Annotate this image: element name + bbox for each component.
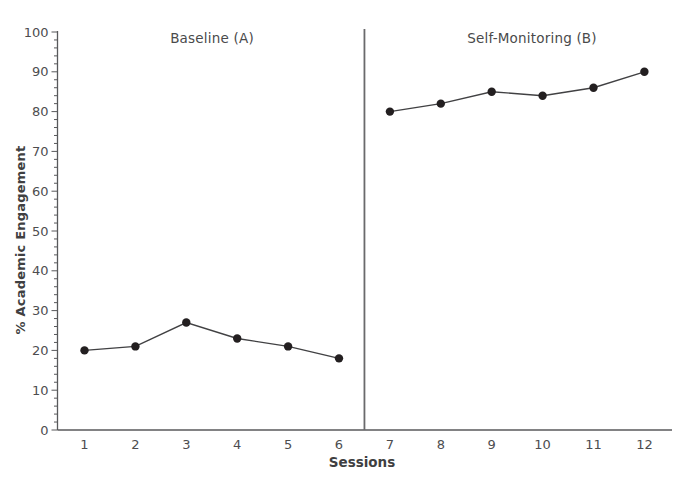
x-tick-label: 10 [534,437,551,452]
data-point [182,318,190,326]
chart-canvas: 0102030405060708090100123456789101112 [0,0,680,481]
x-tick-label: 11 [585,437,602,452]
data-point [284,342,292,350]
x-tick-label: 1 [80,437,88,452]
data-point [488,88,496,96]
y-tick-label: 90 [32,64,49,79]
y-tick-label: 40 [32,263,49,278]
x-tick-label: 6 [335,437,343,452]
data-point [335,354,343,362]
data-point [437,99,445,107]
data-point [131,342,139,350]
x-tick-label: 2 [131,437,139,452]
x-tick-label: 5 [284,437,292,452]
y-tick-label: 50 [32,224,49,239]
phase-label-self-monitoring: Self-Monitoring (B) [467,30,597,46]
data-point [386,107,394,115]
y-tick-label: 60 [32,184,49,199]
phase-label-baseline: Baseline (A) [170,30,254,46]
x-tick-label: 7 [386,437,394,452]
data-point [640,68,648,76]
series-line-self-monitoring [390,72,645,112]
x-tick-label: 12 [636,437,653,452]
data-point [589,84,597,92]
y-axis-title: % Academic Engagement [13,146,28,335]
x-tick-label: 4 [233,437,241,452]
ab-design-chart: 0102030405060708090100123456789101112 % … [0,0,680,481]
y-tick-label: 0 [40,423,48,438]
y-tick-label: 70 [32,144,49,159]
x-axis-title: Sessions [329,454,396,470]
data-point [233,334,241,342]
y-tick-label: 10 [32,383,49,398]
data-point [80,346,88,354]
y-tick-label: 30 [32,303,49,318]
data-point [538,91,546,99]
series-line-baseline [85,323,340,359]
y-tick-label: 100 [24,25,49,40]
x-tick-label: 8 [437,437,445,452]
y-tick-label: 20 [32,343,49,358]
y-tick-label: 80 [32,104,49,119]
x-tick-label: 3 [182,437,190,452]
x-tick-label: 9 [488,437,496,452]
